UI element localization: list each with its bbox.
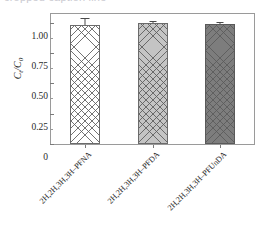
y-tick-mark	[50, 23, 54, 24]
bar-slot	[138, 14, 168, 144]
error-bar	[152, 22, 153, 23]
x-tick-mark	[85, 145, 86, 148]
y-tick-mark	[50, 53, 54, 54]
y-tick-label: 0	[14, 152, 48, 162]
x-tick-label: 2H,2H,3H,3H–PFUnDA	[156, 150, 229, 223]
x-tick-label: 2H,2H,3H,3H–PFDA	[88, 150, 161, 223]
y-tick-label: 1.00	[14, 31, 48, 41]
x-tick-mark	[220, 145, 221, 148]
bars-container	[51, 14, 254, 144]
y-tick-label: 0.50	[14, 91, 48, 101]
y-tick-label: 0.25	[14, 122, 48, 132]
y-tick-minor-mark	[50, 38, 53, 39]
y-tick-mark	[50, 83, 54, 84]
bar-chart-figure: Ct/C0 00.250.500.751.00 2H,2H,3H,3H–PFNA…	[0, 0, 271, 249]
error-bar-cap	[217, 22, 224, 23]
y-tick-minor-mark	[50, 129, 53, 130]
error-bar	[84, 19, 85, 25]
bar[interactable]	[70, 25, 100, 144]
y-tick-mark	[50, 144, 54, 145]
y-tick-label: 0.75	[14, 61, 48, 71]
y-tick-mark	[50, 114, 54, 115]
bar-slot	[205, 14, 235, 144]
error-bar	[220, 23, 221, 24]
y-tick-minor-mark	[50, 98, 53, 99]
error-bar-cap	[80, 18, 89, 19]
bar[interactable]	[138, 23, 168, 144]
bar-slot	[70, 14, 100, 144]
y-axis-ticks: 00.250.500.751.00	[8, 13, 48, 145]
bar[interactable]	[205, 24, 235, 144]
y-tick-minor-mark	[50, 68, 53, 69]
error-bar-cap	[149, 21, 156, 22]
x-tick-mark	[153, 145, 154, 148]
